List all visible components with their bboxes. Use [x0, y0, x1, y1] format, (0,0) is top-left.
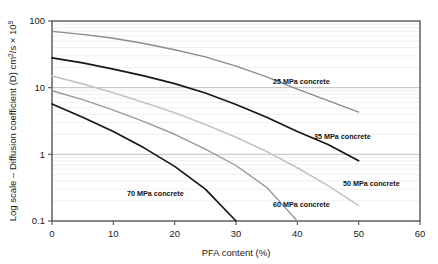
x-tick-label: 20	[169, 228, 180, 239]
series-label-25-mpa-concrete: 25 MPa concrete	[273, 77, 330, 86]
y-tick-label: 100	[29, 15, 45, 26]
chart-figure: 0102030405060 1001010.1 25 MPa concrete3…	[0, 0, 438, 264]
y-tick-label: 1	[40, 149, 45, 160]
series-label-35-mpa-concrete: 35 MPa concrete	[314, 132, 371, 141]
series-label-70-mpa-concrete: 70 MPa concrete	[127, 189, 184, 198]
series-label-50-mpa-concrete: 50 MPa concrete	[343, 179, 400, 188]
series-label-60-mpa-concrete: 60 MPa concrete	[273, 200, 330, 209]
x-tick-label: 50	[353, 228, 364, 239]
x-tick-label: 0	[49, 228, 54, 239]
x-tick-label: 60	[415, 228, 426, 239]
y-axis-title: Log scale – Diffusion coefficient (D) cm…	[7, 20, 18, 221]
x-axis-title: PFA content (%)	[202, 247, 271, 258]
x-tick-label: 10	[108, 228, 119, 239]
x-tick-label: 40	[292, 228, 303, 239]
chart-background	[0, 0, 438, 264]
y-tick-label: 0.1	[32, 215, 45, 226]
diffusion-coefficient-line-chart: 0102030405060 1001010.1 25 MPa concrete3…	[0, 0, 438, 264]
y-tick-label: 10	[34, 82, 45, 93]
x-tick-label: 30	[231, 228, 242, 239]
